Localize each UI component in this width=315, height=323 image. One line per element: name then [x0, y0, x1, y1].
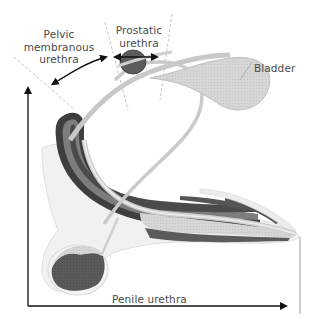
prostatic-urethra-label: Prostatic urethra [114, 24, 164, 49]
pelvic-membranous-urethra-label: Pelvic membranous urethra [20, 28, 98, 66]
label-line: membranous [20, 41, 98, 54]
label-line: urethra [114, 37, 164, 50]
label-line: urethra [20, 53, 98, 66]
urethra-diagram: Pelvic membranous urethra Prostatic uret… [0, 0, 315, 323]
penile-urethra-label: Penile urethra [112, 293, 187, 306]
label-line: Pelvic [20, 28, 98, 41]
bladder-label: Bladder [254, 62, 295, 75]
label-line: Prostatic [114, 24, 164, 37]
